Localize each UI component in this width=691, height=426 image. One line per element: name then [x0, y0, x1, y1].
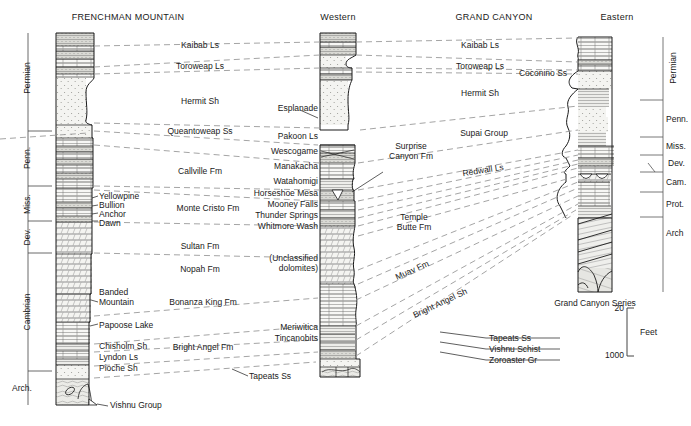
member-papoose-lake: Papoose Lake — [99, 320, 153, 330]
scale-bottom-value: 1000 — [605, 350, 624, 360]
scale-unit-label: Feet — [640, 327, 657, 337]
scale-bar — [627, 308, 634, 356]
left-period-devonian: Dev. — [22, 229, 32, 246]
western-column — [320, 33, 360, 377]
member-dawn: Dawn — [99, 218, 121, 228]
header-eastern: Eastern — [600, 12, 633, 22]
label-sultan-fm: Sultan Fm — [181, 241, 220, 251]
member-pioche-sh: Pioche Sh — [99, 363, 138, 373]
right-period-archean: Arch — [666, 228, 683, 238]
label-callville-fm: Callville Fm — [178, 166, 222, 176]
unit-esplanade: Esplanade — [278, 103, 318, 113]
label-redwall-ls: Redwall Ls — [462, 162, 505, 178]
label-zoroaster-gr: Zoroaster Gr — [489, 355, 537, 365]
left-period-cambrian: Cambrian — [22, 294, 32, 331]
left-period-archean: Arch. — [12, 383, 32, 393]
stratigraphic-correlation-figure: FRENCHMAN MOUNTAIN Western GRAND CANYON … — [0, 0, 691, 426]
left-period-pennsylvanian: Penn. — [22, 147, 32, 169]
member-lyndon-ls: Lyndon Ls — [99, 352, 138, 362]
unit-mooney-falls: Mooney Falls — [267, 199, 318, 209]
right-period-permian: Permian — [668, 52, 678, 84]
label-queantoweap-ss: Queantoweap Ss — [167, 126, 232, 136]
label-toroweap-ls-left: Toroweap Ls — [176, 61, 224, 71]
label-kaibab-ls-left: Kaibab Ls — [181, 40, 219, 50]
label-monte-cristo-fm: Monte Cristo Fm — [177, 203, 240, 213]
label-toroweap-ls-right: Toroweap Ls — [456, 61, 504, 71]
label-hermit-sh-right: Hermit Sh — [461, 88, 499, 98]
label-vishnu-group: Vishnu Group — [110, 400, 162, 410]
label-vishnu-schist: Vishnu Schist — [489, 344, 540, 354]
right-period-mississippian: Miss. — [666, 141, 686, 151]
unit-unclassified-dolomites: (Unclassified dolomites) — [269, 253, 318, 273]
label-kaibab-ls-right: Kaibab Ls — [461, 40, 499, 50]
unit-wescogame: Wescogame — [271, 146, 318, 156]
header-grand-canyon: GRAND CANYON — [455, 12, 532, 22]
right-period-proterozoic: Prot. — [666, 199, 684, 209]
right-period-pennsylvanian: Penn. — [666, 114, 688, 124]
header-western: Western — [320, 12, 355, 22]
member-chisholm-sh: Chisholm Sh — [99, 341, 147, 351]
member-banded-mountain: Banded Mountain — [99, 287, 134, 307]
label-hermit-sh-left: Hermit Sh — [181, 96, 219, 106]
left-period-permian: Permian — [22, 62, 32, 94]
label-coconino-ss: Coconino Ss — [519, 68, 567, 78]
unit-tincanobits: Tincanobits — [275, 333, 318, 343]
scale-top-value: 20 — [615, 303, 624, 313]
label-surprise-canyon-fm: Surprise Canyon Fm — [389, 141, 433, 161]
frenchman-mountain-column — [56, 33, 97, 405]
unit-thunder-springs: Thunder Springs — [255, 210, 318, 220]
unit-pakoon-ls: Pakoon Ls — [278, 131, 318, 141]
header-frenchman-mountain: FRENCHMAN MOUNTAIN — [72, 12, 185, 22]
label-bright-angel-fm: Bright Angel Fm — [173, 342, 233, 352]
label-temple-butte-fm: Temple Butte Fm — [397, 212, 431, 232]
right-period-axis — [640, 37, 663, 292]
label-muav-fm: Muav Fm — [394, 258, 430, 282]
label-bright-angel-sh: Bright Angel Sh — [411, 286, 468, 320]
unit-whitmore-wash: Whitmore Wash — [258, 221, 318, 231]
label-supai-group: Supai Group — [460, 128, 508, 138]
label-tapeats-ss-left: Tapeats Ss — [249, 371, 291, 381]
right-period-cambrian: Cam. — [666, 177, 686, 187]
label-bonanza-king-fm: Bonanza King Fm — [169, 297, 237, 307]
unit-watahomigi: Watahomigi — [273, 176, 318, 186]
unit-meriwitica: Meriwitica — [280, 322, 318, 332]
label-nopah-fm: Nopah Fm — [180, 264, 220, 274]
left-period-mississippian: Miss. — [22, 194, 32, 214]
right-period-devonian: Dev. — [668, 158, 685, 168]
label-tapeats-ss-right: Tapeats Ss — [489, 333, 531, 343]
unit-manakacha: Manakacha — [274, 161, 318, 171]
unit-horseshoe-mesa: Horseshoe Mesa — [254, 188, 318, 198]
